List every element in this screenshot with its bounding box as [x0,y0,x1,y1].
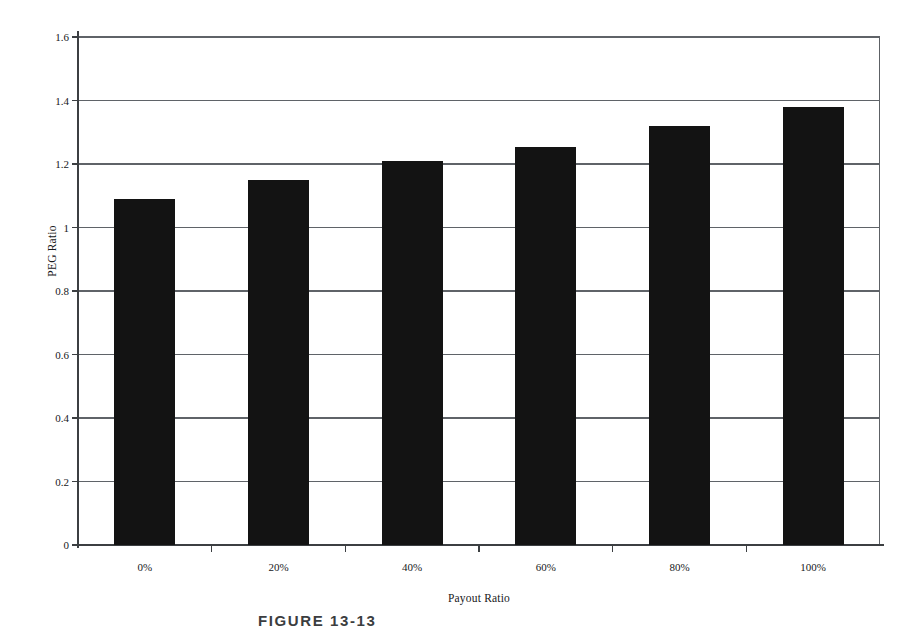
y-tick-label: 0.6 [55,349,69,361]
y-tick-mark [72,36,79,38]
x-tick-mark [478,544,480,552]
y-tick-mark [72,290,79,292]
gridline [78,481,880,482]
x-tick-label: 20% [268,561,288,573]
y-tick-label: 0.2 [55,476,69,488]
y-tick-mark [72,227,79,229]
y-tick-mark [72,354,79,356]
y-tick-mark [72,100,79,102]
figure-caption: FIGURE 13-13 [258,612,376,629]
y-tick-mark [72,417,79,419]
bar [649,126,710,545]
gridline [78,417,880,418]
x-tick-mark [746,544,748,552]
x-tick-label: 40% [402,561,422,573]
x-tick-label: 80% [669,561,689,573]
y-tick-label: 0.4 [55,412,69,424]
y-tick-label: 1 [64,222,70,234]
x-axis-title: Payout Ratio [78,592,880,604]
gridline [78,227,880,228]
x-tick-label: 60% [536,561,556,573]
y-tick-label: 1.6 [55,31,69,43]
y-tick-label: 1.4 [55,95,69,107]
y-tick-mark [72,544,79,546]
x-tick-mark [345,544,347,552]
gridline [78,100,880,101]
gridline [78,36,880,37]
bar [248,180,309,545]
y-tick-mark [72,163,79,165]
bar [382,161,443,545]
y-tick-label: 1.2 [55,158,69,170]
y-tick-label: 0.8 [55,285,69,297]
bar [515,147,576,545]
x-tick-mark [612,544,614,552]
x-tick-mark [211,544,213,552]
x-tick-label: 0% [137,561,152,573]
plot-area: 00.20.40.60.811.21.41.6 0%20%40%60%80%10… [78,37,880,545]
y-tick-label: 0 [64,539,70,551]
y-tick-mark [72,481,79,483]
bar [114,199,175,545]
bar [783,107,844,545]
gridline [78,354,880,355]
gridline [78,163,880,164]
x-tick-label: 100% [800,561,826,573]
gridline [78,290,880,291]
